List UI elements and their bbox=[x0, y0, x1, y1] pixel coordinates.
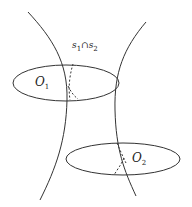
hyperboloid-diagram bbox=[0, 0, 192, 207]
label-intersection: s1∩s2 bbox=[72, 41, 98, 53]
label-o2-base: O bbox=[132, 151, 142, 165]
label-o2: O2 bbox=[132, 152, 146, 167]
label-o1-base: O bbox=[35, 75, 45, 89]
right-branch-curve bbox=[115, 22, 146, 196]
diagram-canvas: O1 O2 s1∩s2 bbox=[0, 0, 192, 207]
ellipse-o2 bbox=[66, 143, 180, 175]
label-cap: ∩ bbox=[81, 40, 89, 50]
label-o1-sub: 1 bbox=[45, 83, 49, 91]
left-branch-curve bbox=[28, 12, 67, 200]
dashed-intersection-o1 bbox=[68, 64, 78, 100]
label-s2-sub: 2 bbox=[93, 45, 97, 53]
dashed-intersection-o2 bbox=[114, 143, 126, 175]
label-o1: O1 bbox=[35, 76, 49, 91]
label-o2-sub: 2 bbox=[142, 159, 146, 167]
